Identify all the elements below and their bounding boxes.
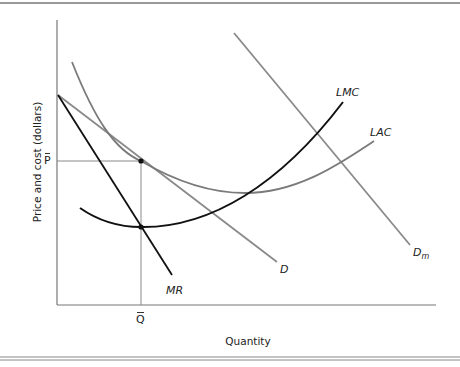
demand-curve bbox=[58, 95, 277, 262]
lac-curve bbox=[72, 62, 374, 193]
lmc-label: LMC bbox=[336, 86, 359, 99]
monopolistic-competition-diagram: Price and cost (dollars) Quantity P Q LM… bbox=[0, 0, 460, 367]
diagram-canvas bbox=[0, 0, 460, 367]
mr-lmc-intersection-point bbox=[138, 224, 143, 229]
market-demand-curve bbox=[234, 33, 410, 245]
dm-label: Dm bbox=[413, 246, 429, 261]
p-bar-label: P bbox=[44, 154, 51, 167]
lmc-curve bbox=[80, 102, 343, 227]
tangency-point bbox=[138, 158, 143, 163]
x-axis-label: Quantity bbox=[225, 335, 270, 347]
y-axis-label: Price and cost (dollars) bbox=[31, 102, 43, 223]
mr-curve bbox=[58, 95, 172, 275]
mr-label: MR bbox=[166, 284, 183, 297]
d-label: D bbox=[280, 263, 288, 276]
lac-label: LAC bbox=[370, 126, 391, 139]
q-bar-label: Q bbox=[136, 313, 145, 326]
